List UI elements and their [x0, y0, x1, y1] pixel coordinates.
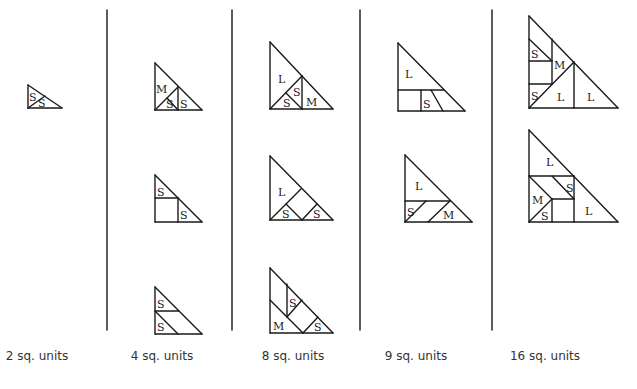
tile-label: L	[557, 91, 565, 104]
tile-label: S	[541, 210, 549, 223]
figure-8-units-b: LSS	[270, 156, 333, 221]
tile-label: M	[532, 194, 543, 207]
tile-label: S	[293, 86, 301, 99]
tile-label: L	[546, 156, 554, 169]
tile-label: S	[289, 297, 297, 310]
tile-label: S	[157, 298, 165, 311]
tile-label: L	[278, 73, 286, 86]
caption-9-units: 9 sq. units	[385, 349, 447, 363]
figure-4-units-a: MSS	[155, 63, 202, 111]
tile-label: L	[585, 205, 593, 218]
caption-8-units: 8 sq. units	[262, 349, 324, 363]
diagram-canvas: SSMSSSSSSLSSMLSSSMSLSLSMSMSLLLSMSL	[0, 0, 637, 389]
tile-label: S	[407, 206, 415, 219]
tile-label: S	[314, 321, 322, 334]
tile-label: L	[415, 180, 423, 193]
tile-label: S	[423, 98, 431, 111]
tile-label: S	[180, 209, 188, 222]
tile-label: S	[531, 48, 539, 61]
figure-16-units-b: LSMSL	[529, 130, 618, 223]
tile-label: M	[443, 209, 454, 222]
tile-label: M	[156, 83, 167, 96]
figure-2-units: SS	[28, 85, 62, 110]
tile-label: M	[273, 320, 284, 333]
tile-label: L	[405, 68, 413, 81]
tile-label: S	[531, 90, 539, 103]
figure-8-units-c: SMS	[270, 268, 333, 334]
figure-4-units-c: SS	[155, 287, 202, 334]
tile-label: S	[157, 186, 165, 199]
tile-label: M	[554, 59, 565, 72]
tile-label: S	[283, 97, 291, 110]
caption-16-units: 16 sq. units	[510, 349, 580, 363]
tile-label: S	[38, 97, 46, 110]
caption-4-units: 4 sq. units	[131, 349, 193, 363]
tile-label: S	[29, 91, 37, 104]
tile-edge	[431, 90, 443, 111]
figure-8-units-a: LSSM	[270, 42, 333, 110]
tile-label: L	[278, 186, 286, 199]
tile-label: S	[282, 208, 290, 221]
figure-9-units-a: LS	[398, 43, 465, 111]
tile-label: L	[587, 91, 595, 104]
tile-label: M	[306, 96, 317, 109]
tile-label: S	[566, 182, 574, 195]
figure-9-units-b: LSM	[405, 155, 472, 222]
tile-label: S	[157, 321, 165, 334]
figure-4-units-b: SS	[155, 175, 202, 222]
caption-2-units: 2 sq. units	[6, 349, 68, 363]
tile-label: S	[180, 98, 188, 111]
tile-label: S	[313, 208, 321, 221]
figure-16-units-a: SMSLL	[529, 16, 618, 108]
tile-label: S	[166, 98, 174, 111]
